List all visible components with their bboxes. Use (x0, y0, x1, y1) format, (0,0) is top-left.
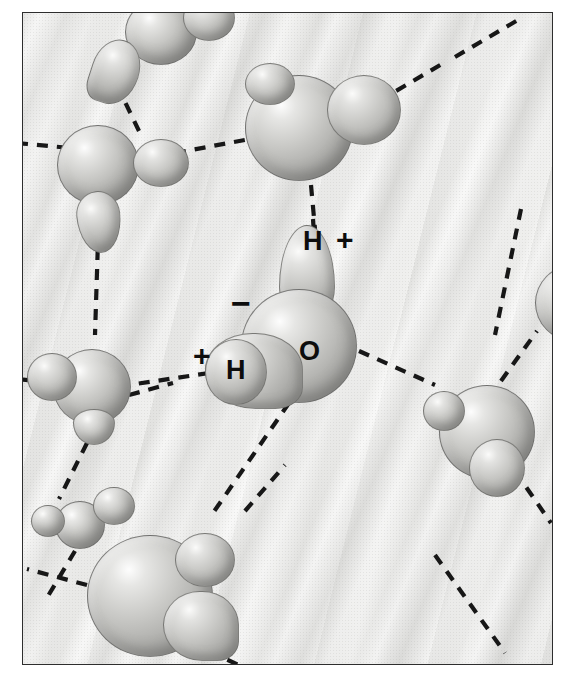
label-charge-negative: − (231, 295, 251, 312)
hydrogen-lobe-upper-left (27, 353, 77, 401)
hydrogen-lobe-right (327, 75, 401, 145)
bond-central-to-bottomleft (213, 403, 289, 513)
label-hydrogen-left: H (226, 357, 246, 384)
bond-topright-corner (455, 17, 523, 57)
hydrogen-lobe-left (31, 505, 65, 537)
bond-central-to-right (359, 351, 435, 385)
label-charge-positive-left: + (193, 341, 211, 371)
bond-rightedge-vertical (495, 209, 521, 335)
hydrogen-lobe-lower (469, 439, 525, 497)
hydrogen-lobe-upper-left (245, 63, 295, 105)
bond-bottomright-diagonal (435, 555, 505, 653)
label-hydrogen-top: H (303, 228, 323, 255)
hydrogen-lobe-right (133, 139, 189, 187)
bond-midleft-to-bottom (59, 443, 87, 499)
hydrogen-lobe-upper-left (423, 391, 465, 431)
bond-right-to-upper (501, 331, 537, 381)
hydrogen-lobe-upper-right (93, 487, 135, 525)
label-oxygen: O (299, 338, 320, 365)
bond-bottomleft-to-upper (245, 465, 285, 511)
illustration-stage: H + − + H O (0, 0, 578, 686)
bond-midleft-to-right (129, 383, 173, 395)
hydrogen-lobe-lower-right (163, 591, 239, 661)
label-charge-positive-top: + (336, 225, 354, 255)
hydrogen-lobe-upper-right (175, 533, 235, 587)
bond-bottomleft-to-left-edge (27, 569, 87, 585)
figure-frame: H + − + H O (22, 12, 553, 665)
